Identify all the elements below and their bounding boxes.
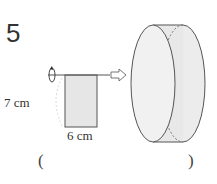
swept-arc — [56, 78, 62, 126]
hollow-right-arrow-icon — [111, 69, 126, 81]
width-label: 6 cm — [67, 129, 93, 142]
height-label: 7 cm — [4, 96, 30, 109]
cylinder-shape — [131, 25, 205, 142]
answer-close-paren: ) — [188, 152, 194, 169]
rotation-arrow-icon — [49, 66, 55, 82]
rectangle-shape — [65, 75, 97, 127]
answer-open-paren: ( — [38, 152, 44, 169]
answer-blank[interactable] — [50, 152, 185, 172]
